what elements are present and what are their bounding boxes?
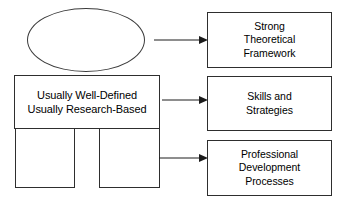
main-description-label: Usually Well-Defined Usually Research-Ba… xyxy=(28,88,147,116)
outcome-label-2: Skills and Strategies xyxy=(246,90,293,117)
outcome-label-1: Strong Theoretical Framework xyxy=(243,20,295,60)
main-description-box: Usually Well-Defined Usually Research-Ba… xyxy=(14,75,160,129)
diagram-canvas: Usually Well-Defined Usually Research-Ba… xyxy=(0,0,345,202)
outcome-box-strong-theoretical-framework: Strong Theoretical Framework xyxy=(207,12,332,68)
arrow-right-icon-2 xyxy=(162,95,208,105)
arrow-right-icon-1 xyxy=(154,35,208,45)
outcome-label-3: Professional Development Processes xyxy=(239,148,300,188)
arrow-right-icon-3 xyxy=(159,153,208,163)
ellipse-node xyxy=(27,8,145,72)
sub-box-left xyxy=(15,128,75,188)
outcome-box-skills-and-strategies: Skills and Strategies xyxy=(207,76,332,131)
sub-box-right xyxy=(99,128,160,188)
outcome-box-professional-development-processes: Professional Development Processes xyxy=(207,140,332,196)
